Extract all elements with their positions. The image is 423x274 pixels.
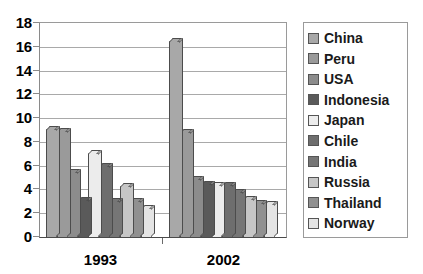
bar-side-face [151, 205, 155, 237]
bar-side-face [232, 182, 236, 237]
legend-swatch-icon [308, 74, 319, 85]
y-tick-label: 0 [24, 229, 32, 244]
legend-swatch-icon [308, 115, 319, 126]
legend-item-indonesia[interactable]: Indonesia [308, 90, 407, 110]
plot-area [39, 22, 287, 238]
legend-item-japan[interactable]: Japan [308, 110, 407, 130]
bar-side-face [98, 150, 102, 237]
bar-side-face [119, 198, 123, 237]
bar-side-face [211, 181, 215, 238]
y-tick-label: 2 [24, 205, 32, 220]
legend-item-norway[interactable]: Norway [308, 213, 407, 233]
y-tick-label: 10 [16, 110, 32, 125]
bar-china-1993 [46, 129, 57, 237]
x-tick-label: 1993 [84, 252, 117, 267]
legend-item-china[interactable]: China [308, 28, 407, 48]
legend-swatch-icon [308, 94, 319, 105]
legend-swatch-icon [308, 177, 319, 188]
legend: ChinaPeruUSAIndonesiaJapanChileIndiaRuss… [303, 22, 408, 238]
plot-region: 181614121086420 19932002 [0, 0, 296, 274]
bar-side-face [190, 129, 194, 237]
x-group-separator [162, 238, 163, 244]
y-tick-label: 12 [16, 86, 32, 101]
bar-side-face [242, 189, 246, 237]
legend-swatch-icon [308, 33, 319, 44]
legend-swatch-icon [308, 135, 319, 146]
bar-side-face [274, 201, 278, 237]
legend-item-chile[interactable]: Chile [308, 131, 407, 151]
legend-label: Norway [324, 216, 375, 230]
bar-side-face [109, 163, 113, 237]
y-tick-label: 4 [24, 181, 32, 196]
legend-label: USA [324, 72, 354, 86]
legend-label: Indonesia [324, 93, 389, 107]
y-tick-label: 14 [16, 62, 32, 77]
bar-side-face [253, 196, 257, 237]
legend-swatch-icon [308, 197, 319, 208]
bar-side-face [221, 182, 225, 237]
bar-chart: 181614121086420 19932002 ChinaPeruUSAInd… [0, 0, 423, 274]
y-tick-label: 6 [24, 157, 32, 172]
bars-layer [40, 23, 286, 237]
bar-side-face [77, 169, 81, 237]
legend-label: India [324, 155, 357, 169]
legend-label: Peru [324, 52, 355, 66]
legend-swatch-icon [308, 53, 319, 64]
legend-label: Japan [324, 113, 364, 127]
x-axis-tick-labels: 19932002 [39, 244, 287, 270]
legend-label: China [324, 31, 363, 45]
legend-label: Russia [324, 175, 370, 189]
legend-label: Thailand [324, 196, 382, 210]
bar-side-face [179, 38, 183, 237]
bar-side-face [88, 197, 92, 237]
y-axis-tick-labels: 181614121086420 [0, 14, 32, 244]
legend-item-india[interactable]: India [308, 152, 407, 172]
x-tick-label: 2002 [207, 252, 240, 267]
bar-side-face [263, 200, 267, 237]
legend-label: Chile [324, 134, 358, 148]
bar-side-face [67, 128, 71, 237]
y-tick-label: 8 [24, 133, 32, 148]
bar-side-face [140, 198, 144, 237]
legend-item-peru[interactable]: Peru [308, 49, 407, 69]
legend-item-thailand[interactable]: Thailand [308, 193, 407, 213]
legend-swatch-icon [308, 218, 319, 229]
legend-item-russia[interactable]: Russia [308, 172, 407, 192]
bar-china-2002 [169, 41, 180, 237]
y-tick-label: 18 [16, 15, 32, 30]
bar-side-face [130, 183, 134, 237]
y-tick-label: 16 [16, 38, 32, 53]
bar-side-face [200, 176, 204, 237]
legend-item-usa[interactable]: USA [308, 69, 407, 89]
bar-side-face [56, 126, 60, 237]
legend-swatch-icon [308, 156, 319, 167]
